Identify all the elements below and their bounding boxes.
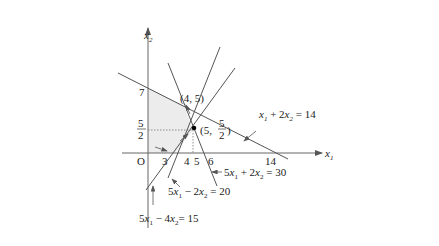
y-tick-5-num: 5 (138, 117, 144, 129)
equation-label-3: 5x1 − 2x2 = 20 (168, 185, 231, 200)
x-tick-6: 6 (208, 155, 214, 167)
equation-label-1: x1 + 2x2 = 14 (258, 108, 316, 123)
x-tick-3: 3 (162, 155, 168, 167)
y-tick-2-den: 2 (138, 129, 144, 141)
point-label-5-5-2-a: (5, (200, 124, 212, 137)
origin-label: O (137, 155, 145, 167)
lp-diagram: x2 x1 O 7 5 2 3 4 5 6 14 (4, 5) (5, 5 2 … (0, 0, 439, 246)
point-label-paren: ) (227, 124, 231, 137)
y-tick-7: 7 (139, 86, 145, 98)
y-axis-label: x2 (143, 29, 153, 44)
point-label-5-5-2-num: 5 (219, 117, 225, 129)
x-axis-label: x1 (324, 147, 333, 162)
equation-label-2: 5x1 + 2x2 = 30 (224, 166, 287, 181)
x-tick-4: 4 (184, 155, 190, 167)
x-tick-5: 5 (194, 155, 200, 167)
point-label-4-5: (4, 5) (180, 92, 204, 105)
vertex-5-5-2 (192, 126, 197, 131)
point-label-5-5-2-den: 2 (219, 129, 225, 141)
